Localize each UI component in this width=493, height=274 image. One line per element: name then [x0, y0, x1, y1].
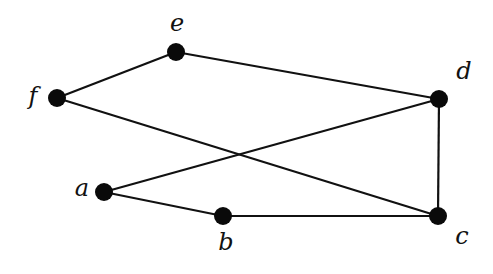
node-label-f: f: [27, 82, 42, 110]
node-f: [48, 89, 66, 107]
node-c: [429, 207, 447, 225]
node-label-c: c: [455, 222, 468, 250]
graph-diagram: abcdef: [0, 0, 493, 274]
node-a: [95, 183, 113, 201]
edge-a-d: [104, 99, 439, 192]
edge-e-d: [176, 52, 439, 99]
edge-a-b: [104, 192, 223, 216]
node-label-d: d: [456, 57, 471, 85]
edges-group: [57, 52, 439, 216]
labels-group: abcdef: [27, 9, 472, 256]
node-label-b: b: [218, 228, 233, 256]
node-label-e: e: [170, 9, 184, 37]
edge-d-c: [438, 99, 439, 216]
node-label-a: a: [75, 174, 89, 202]
node-d: [430, 90, 448, 108]
edge-f-e: [57, 52, 176, 98]
node-e: [167, 43, 185, 61]
nodes-group: [48, 43, 448, 225]
node-b: [214, 207, 232, 225]
